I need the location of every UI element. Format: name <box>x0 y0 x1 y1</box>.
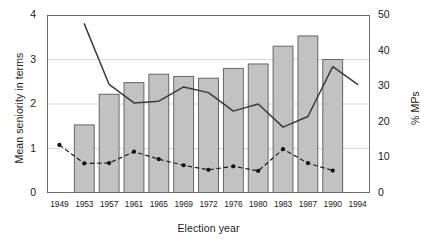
plot-area <box>47 15 370 193</box>
data-point-1972 <box>206 168 210 172</box>
y-tick-right-20: 20 <box>378 116 402 127</box>
data-point-1949 <box>57 143 61 147</box>
bar-1980 <box>248 64 268 193</box>
data-point-1983 <box>281 147 285 151</box>
y-tick-right-40: 40 <box>378 45 402 56</box>
data-point-1976 <box>231 164 235 168</box>
y-tick-right-50: 50 <box>378 9 402 20</box>
data-point-1961 <box>132 150 136 154</box>
y-tick-left-1: 1 <box>12 143 36 154</box>
data-point-1980 <box>256 169 260 173</box>
y-tick-right-30: 30 <box>378 80 402 91</box>
bar-1987 <box>298 36 318 193</box>
bar-1961 <box>124 83 144 193</box>
y-axis-label-right: % MPs <box>409 33 421 183</box>
y-tick-right-10: 10 <box>378 151 402 162</box>
data-point-1987 <box>306 161 310 165</box>
data-point-1990 <box>331 168 335 172</box>
plot-svg <box>47 15 370 193</box>
data-point-1969 <box>182 163 186 167</box>
y-tick-left-2: 2 <box>12 98 36 109</box>
y-tick-left-0: 0 <box>12 187 36 198</box>
data-point-1965 <box>157 157 161 161</box>
x-axis-label: Election year <box>47 222 370 234</box>
y-tick-left-3: 3 <box>12 54 36 65</box>
bar-1976 <box>223 68 243 193</box>
bar-1969 <box>174 76 194 193</box>
bar-1965 <box>149 74 169 193</box>
bar-1983 <box>273 46 293 193</box>
data-point-1957 <box>107 161 111 165</box>
y-tick-right-0: 0 <box>378 187 402 198</box>
bar-1972 <box>199 78 219 193</box>
data-point-1953 <box>82 161 86 165</box>
x-tick-1994: 1994 <box>342 199 374 210</box>
y-tick-left-4: 4 <box>12 9 36 20</box>
bar-1957 <box>99 94 119 193</box>
